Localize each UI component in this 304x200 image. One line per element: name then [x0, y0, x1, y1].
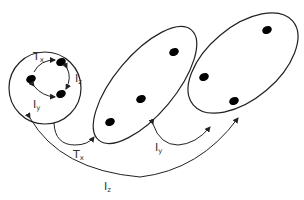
symmetry-diagram: Tx Iz Iy Tx Iy Iz: [0, 0, 304, 200]
middle-ellipse-cluster: [76, 11, 215, 160]
label-iy-inner: Iy: [33, 98, 40, 112]
right-ellipse-cluster: [170, 0, 304, 132]
label-iz-outer: Iz: [104, 180, 111, 194]
label-tx-outer: Tx: [72, 148, 84, 162]
outer-arrows: Tx Iy Iz: [30, 118, 238, 194]
circle-cluster: Tx Iz Iy: [9, 50, 82, 124]
label-iy-outer: Iy: [155, 141, 162, 155]
